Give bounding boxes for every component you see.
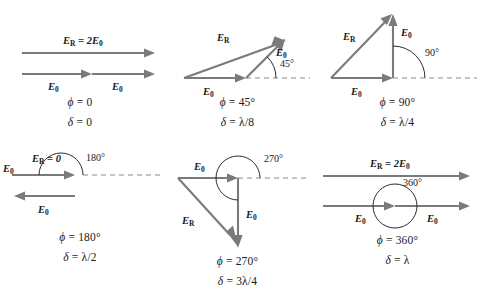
component-label-2: E0 xyxy=(111,81,123,94)
component-label-2: E0 xyxy=(245,209,257,222)
resultant-vector-arrow xyxy=(184,36,286,78)
resultant-label: ER = 0 xyxy=(31,153,62,166)
resultant-label: ER = 2E0 xyxy=(62,35,103,48)
caption-phi: ϕ = 180° xyxy=(0,231,160,243)
panel-phi-180: 180° ER = 0 E0 E0 ϕ = 180° δ = λ/2 xyxy=(0,148,160,305)
component-vector-arrow-1 xyxy=(178,173,238,182)
resultant-label: ER xyxy=(342,31,356,44)
angle-label: 360° xyxy=(403,177,422,188)
caption-phi: ϕ = 0 xyxy=(0,96,160,108)
resultant-label: ER xyxy=(216,32,230,45)
caption-phi: ϕ = 270° xyxy=(160,255,315,267)
component-label-2: E0 xyxy=(37,204,49,217)
component-vector-arrow-1 xyxy=(22,69,92,78)
caption-delta: δ = 3λ/4 xyxy=(160,275,315,287)
caption-delta: δ = λ/8 xyxy=(160,116,315,128)
angle-label: 90° xyxy=(425,47,439,58)
panel-phi-0: ER = 2E0 E0 E0 ϕ = 0 δ = 0 xyxy=(0,0,160,152)
resultant-vector-arrow xyxy=(22,48,155,57)
component-vector-arrow-2 xyxy=(395,201,470,210)
phasor-diagram-figure: ER = 2E0 E0 E0 ϕ = 0 δ = 0 xyxy=(0,0,480,305)
component-vector-arrow-1 xyxy=(323,201,395,210)
component-label-1: E0 xyxy=(193,161,205,174)
panel-phi-45: 45° ER E0 E0 ϕ = 45° δ = λ/8 xyxy=(160,0,315,152)
component-vector-arrow-1 xyxy=(331,73,393,82)
component-label-1: E0 xyxy=(47,81,59,94)
angle-label: 180° xyxy=(86,152,105,163)
resultant-vector-arrow xyxy=(178,178,238,247)
panel-phi-270: 270° E0 ER E0 ϕ = 270° δ = 3λ/4 xyxy=(160,148,315,305)
resultant-vector-arrow xyxy=(331,14,392,78)
resultant-label: ER = 2E0 xyxy=(369,158,410,171)
angle-label: 270° xyxy=(264,153,283,164)
component-vector-arrow-2 xyxy=(14,191,75,200)
panel-phi-360: 360° ER = 2E0 E0 E0 ϕ = 360° δ = λ xyxy=(315,148,480,305)
resultant-vector-arrow xyxy=(323,171,470,180)
angle-arc xyxy=(393,46,425,78)
caption-phi: ϕ = 45° xyxy=(160,96,315,108)
component-label-2: E0 xyxy=(400,27,412,40)
component-vector-arrow-2 xyxy=(92,69,155,78)
panel-phi-270-graphic: 270° E0 ER E0 xyxy=(160,148,315,263)
caption-phi: ϕ = 360° xyxy=(315,234,480,246)
resultant-label: ER xyxy=(181,215,195,228)
angle-arc xyxy=(267,57,276,78)
caption-delta: δ = λ xyxy=(315,254,480,266)
component-vector-arrow-1 xyxy=(12,170,75,179)
component-label-1: E0 xyxy=(354,213,366,226)
caption-delta: δ = λ/4 xyxy=(315,116,480,128)
caption-delta: δ = 0 xyxy=(0,116,160,128)
caption-phi: ϕ = 90° xyxy=(315,96,480,108)
component-label-1: E0 xyxy=(2,163,14,176)
component-label-2: E0 xyxy=(426,213,438,226)
panel-phi-90: 90° ER E0 E0 ϕ = 90° δ = λ/4 xyxy=(315,0,480,152)
caption-delta: δ = λ/2 xyxy=(0,251,160,263)
